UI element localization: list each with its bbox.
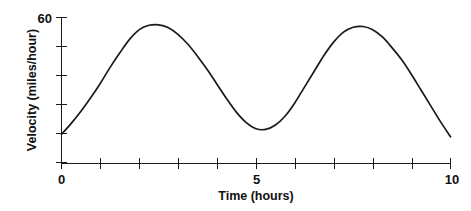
x-axis-title: Time (hours) — [218, 189, 293, 203]
x-tick-label-0: 0 — [58, 172, 65, 187]
velocity-curve — [62, 25, 451, 137]
x-tick-label-5: 5 — [253, 172, 260, 187]
chart-figure: 60 0 5 10 Time (hours) Velocity (miles/h… — [0, 0, 471, 211]
x-tick-label-10: 10 — [445, 172, 459, 187]
y-axis-title: Velocity (miles/hour) — [25, 29, 39, 151]
chart-canvas: 60 0 5 10 Time (hours) Velocity (miles/h… — [0, 0, 471, 211]
y-tick-label-60: 60 — [38, 11, 52, 26]
